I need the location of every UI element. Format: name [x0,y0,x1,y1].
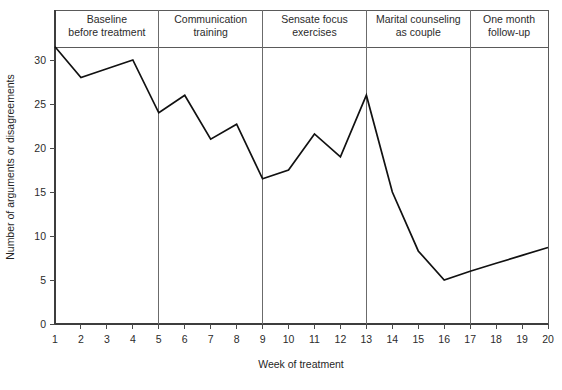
phase-label-line1: Marital counseling [376,13,461,25]
phase-label-line1: Baseline [87,13,127,25]
phase-label-group: Baselinebefore treatmentCommunicationtra… [68,13,535,38]
phase-label: Communicationtraining [174,13,247,38]
x-tick-label: 17 [464,333,476,345]
x-tick-label: 20 [542,333,554,345]
y-tick-label: 15 [34,186,46,198]
x-tick-label: 15 [412,333,424,345]
y-tick-group: 051015202530 [34,54,55,330]
y-tick-label: 10 [34,230,46,242]
phase-label-line2: training [193,26,228,38]
phase-label: Baselinebefore treatment [68,13,145,38]
x-tick-label: 18 [490,333,502,345]
x-tick-label: 13 [361,333,373,345]
x-tick-label: 3 [104,333,110,345]
phase-label: Sensate focusexercises [281,13,348,38]
x-tick-label: 1 [52,333,58,345]
x-tick-label: 9 [260,333,266,345]
x-tick-label: 14 [386,333,398,345]
phase-label-line1: One month [483,13,535,25]
phase-divider-group [159,10,470,324]
line-chart: 051015202530 123456789101112131415161718… [0,0,562,390]
x-tick-label: 11 [309,333,320,345]
x-tick-label: 2 [78,333,84,345]
phase-label-line1: Communication [174,13,247,25]
y-tick-label: 20 [34,142,46,154]
phase-label-line2: exercises [292,26,336,38]
phase-label-line2: follow-up [488,26,530,38]
y-tick-label: 30 [34,54,46,66]
y-axis-title: Number of arguments or disagreements [4,74,16,260]
x-tick-label: 7 [208,333,214,345]
x-tick-label: 4 [130,333,136,345]
frame-outline [55,10,548,324]
axes [55,10,548,324]
x-tick-group: 1234567891011121314151617181920 [52,324,554,345]
phase-label-line1: Sensate focus [281,13,348,25]
phase-label: Marital counselingas couple [376,13,461,38]
chart-frame [55,10,548,324]
phase-label: One monthfollow-up [483,13,535,38]
x-axis-title: Week of treatment [258,358,344,370]
x-tick-label: 10 [283,333,295,345]
x-tick-label: 19 [516,333,528,345]
x-tick-label: 5 [156,333,162,345]
y-tick-label: 0 [40,318,46,330]
phase-label-line2: as couple [396,26,441,38]
y-tick-label: 25 [34,98,46,110]
x-tick-label: 12 [335,333,347,345]
phase-label-line2: before treatment [68,26,145,38]
chart-container: 051015202530 123456789101112131415161718… [0,0,562,390]
x-tick-label: 8 [234,333,240,345]
x-tick-label: 6 [182,333,188,345]
y-tick-label: 5 [40,274,46,286]
x-tick-label: 16 [438,333,450,345]
data-series-line [55,47,548,280]
